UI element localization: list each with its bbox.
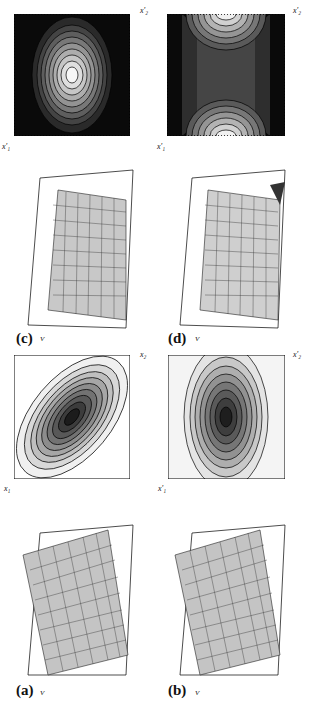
contour-plot-d xyxy=(167,14,285,136)
panel-label-c: (c) xyxy=(16,330,33,347)
surface-plot-c xyxy=(8,160,153,345)
v-axis-label-d: V xyxy=(195,336,199,343)
panel-label-b: (b) xyxy=(168,682,186,699)
contour-d-y-label: x′₁ xyxy=(157,142,165,151)
v-axis-label-b: V xyxy=(195,690,199,697)
contour-plot-a xyxy=(14,355,130,479)
contour-a-y-label: x₁ xyxy=(4,484,10,493)
contour-plot-c xyxy=(14,14,130,136)
contour-b-x-label: x′₂ xyxy=(293,350,301,359)
contour-c-y-label: x′₁ xyxy=(2,142,10,151)
contour-d-x-label: x′₂ xyxy=(293,6,301,15)
surface-plot-a xyxy=(8,515,153,690)
contour-b-y-label: x′₁ xyxy=(158,484,166,493)
v-axis-label-a: V xyxy=(40,690,44,697)
surface-plot-d xyxy=(160,160,305,345)
v-axis-label-c: V xyxy=(40,336,44,343)
contour-c-x-label: x′₂ xyxy=(140,6,148,15)
surface-plot-b xyxy=(160,515,305,690)
panel-label-d: (d) xyxy=(168,330,186,347)
contour-plot-b xyxy=(168,355,285,479)
panel-label-a: (a) xyxy=(16,682,34,699)
contour-a-x-label: x₂ xyxy=(140,350,146,359)
